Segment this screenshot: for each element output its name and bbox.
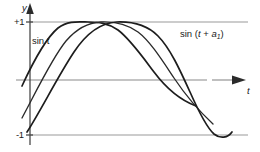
figure-canvas (0, 0, 260, 152)
curve-label-prefix: sin ( (180, 28, 198, 39)
curve-label-sin-t-plus-a1: sin (t + a1) (180, 29, 224, 39)
curve-label-alpha: a (211, 28, 216, 39)
y-axis-label: y (22, 3, 27, 13)
sine-phase-shift-figure: y t +1 -1 sin t sin (t + a1) (0, 0, 260, 152)
curve-label-operator: + (201, 28, 212, 39)
y-tick-label-plus-one: +1 (14, 17, 24, 27)
t-axis-label: t (247, 86, 250, 96)
curve-label-sin-t: sin t (32, 36, 49, 46)
t-axis-arrow-icon (232, 76, 246, 85)
curve-label-subscript: 1 (217, 33, 221, 40)
y-tick-label-minus-one: -1 (16, 130, 24, 140)
y-axis-arrow-icon (26, 3, 34, 14)
curve-label-sin-t-text: sin t (32, 35, 49, 46)
